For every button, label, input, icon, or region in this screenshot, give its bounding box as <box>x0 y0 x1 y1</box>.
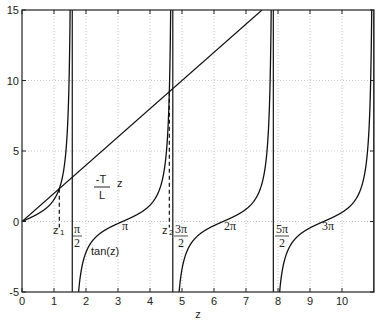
tick-labels: 012345678910-5051015 <box>7 4 348 307</box>
tan-branch <box>273 0 373 320</box>
svg-text:z: z <box>53 224 59 236</box>
y-tick-label: 5 <box>13 145 19 157</box>
x-axis-label: z <box>195 308 201 320</box>
y-tick-label: 10 <box>7 75 19 87</box>
x-tick-label: 6 <box>211 295 217 307</box>
line-label-variable: z <box>117 177 123 189</box>
five-pi-half-label: 5π 2 <box>275 222 289 250</box>
svg-text:5π: 5π <box>276 222 288 236</box>
tan-branch <box>22 0 72 221</box>
x-tick-label: 9 <box>307 295 313 307</box>
three-pi-half-label: 3π 2 <box>174 222 188 250</box>
svg-text:2: 2 <box>169 228 174 237</box>
x-tick-label: 2 <box>83 295 89 307</box>
tan-branch <box>72 0 172 320</box>
x-tick-label: 1 <box>51 295 57 307</box>
line-label-numerator: -T <box>96 173 107 185</box>
x-tick-label: 4 <box>147 295 153 307</box>
three-pi-label: 3π <box>322 219 334 233</box>
chart-container: 012345678910-5051015 -T L z tan(z) z 1 z… <box>0 0 383 325</box>
svg-text:2: 2 <box>74 236 80 250</box>
y-tick-label: 15 <box>7 4 19 16</box>
x-tick-label: 0 <box>19 295 25 307</box>
pi-half-label: π 2 <box>72 222 82 250</box>
svg-text:2: 2 <box>279 236 285 250</box>
svg-text:z: z <box>162 224 168 236</box>
y-tick-label: -5 <box>9 286 19 298</box>
y-tick-label: 0 <box>13 216 19 228</box>
svg-text:3π: 3π <box>175 222 187 236</box>
x-tick-label: 10 <box>336 295 348 307</box>
x-tick-label: 5 <box>179 295 185 307</box>
svg-text:2: 2 <box>178 236 184 250</box>
linear-line <box>22 10 262 222</box>
tan-root-plot: 012345678910-5051015 -T L z tan(z) z 1 z… <box>0 0 383 325</box>
x-tick-label: 7 <box>243 295 249 307</box>
two-pi-label: 2π <box>224 219 236 233</box>
svg-text:π: π <box>74 222 80 236</box>
svg-text:1: 1 <box>60 228 65 237</box>
pi-label: π <box>122 219 128 233</box>
x-tick-label: 8 <box>275 295 281 307</box>
tan-branch <box>173 0 273 320</box>
data-curves <box>22 0 374 320</box>
line-label-denominator: L <box>99 189 105 201</box>
tan-curve-label: tan(z) <box>91 245 119 257</box>
x-tick-label: 3 <box>115 295 121 307</box>
